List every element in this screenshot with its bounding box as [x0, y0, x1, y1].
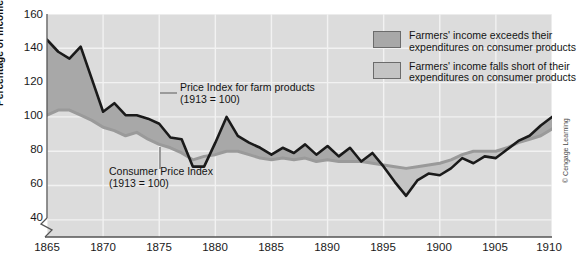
x-tick-label: 1900 [414, 241, 464, 253]
x-tick-label: 1885 [246, 241, 296, 253]
x-tick-label: 1910 [524, 241, 574, 253]
x-axis-ticks: 1865 1870 1875 1880 1885 1890 1895 1900 … [0, 241, 577, 261]
x-tick-label: 1870 [78, 241, 128, 253]
x-tick-label: 1865 [22, 241, 72, 253]
x-tick-label: 1890 [302, 241, 352, 253]
x-tick-label: 1895 [358, 241, 408, 253]
x-tick-label: 1875 [134, 241, 184, 253]
chart-figure: Percentage of Income 160 140 120 100 80 … [0, 0, 577, 277]
x-tick-label: 1880 [190, 241, 240, 253]
x-tick-label: 1905 [470, 241, 520, 253]
copyright-credit: © Cengage Learning [562, 93, 569, 183]
axis-lines [0, 0, 577, 277]
